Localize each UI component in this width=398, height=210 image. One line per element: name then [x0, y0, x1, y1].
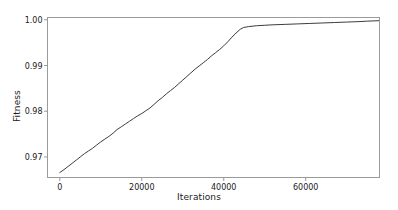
x-axis-title: Iterations — [0, 192, 398, 202]
y-axis-title: Fitness — [12, 90, 22, 122]
x-tick-label: 60000 — [293, 183, 318, 192]
data-series-group — [60, 21, 379, 173]
x-tick-label: 40000 — [211, 183, 236, 192]
y-tick-label: 0.99 — [25, 61, 43, 70]
y-tick-label: 0.98 — [25, 107, 43, 116]
plot-frame-rect — [48, 18, 380, 178]
plot-canvas — [0, 0, 398, 210]
fitness-vs-iterations-chart: Fitness Iterations 0200004000060000 0.97… — [0, 0, 398, 210]
y-axis-ticks — [44, 20, 48, 157]
x-tick-label: 20000 — [129, 183, 154, 192]
x-tick-label: 0 — [57, 183, 62, 192]
plot-frame — [48, 18, 380, 178]
x-axis-ticks — [60, 178, 306, 182]
y-tick-label: 0.97 — [25, 152, 43, 161]
y-tick-label: 1.00 — [25, 15, 43, 24]
fitness-line — [60, 21, 379, 173]
